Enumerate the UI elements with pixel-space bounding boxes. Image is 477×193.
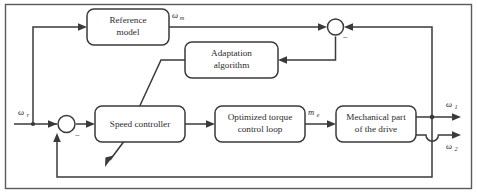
- reference-model-label-line1: Reference: [109, 15, 146, 25]
- wire-error-to-adaptation: [287, 37, 336, 61]
- model-speed-subscript: m: [180, 14, 185, 21]
- optimized-torque-label-line2: control loop: [238, 124, 283, 134]
- optimized-torque-label-line1: Optimized torque: [228, 112, 293, 122]
- block-adaptation-algorithm[interactable]: Adaptation algorithm: [185, 42, 278, 78]
- label-load-speed: ω 2: [446, 141, 458, 152]
- arrowhead-into-input-summing: [48, 120, 57, 128]
- arrowhead-load-speed-output: [452, 131, 461, 139]
- input-summing-sign: −: [74, 130, 79, 140]
- arrowhead-into-error-junction-right: [344, 23, 353, 31]
- label-model-speed: ω m: [172, 10, 185, 21]
- label-motor-speed: ω 1: [446, 99, 458, 110]
- arrowhead-into-speed-controller: [86, 120, 95, 128]
- block-mechanical-part-of-drive[interactable]: Mechanical part of the drive: [336, 106, 416, 142]
- reference-model-label-line2: model: [117, 27, 140, 37]
- motor-speed-subscript: 1: [454, 103, 457, 110]
- node-motor-speed-tap: [430, 115, 435, 120]
- mechanical-part-label-line1: Mechanical part: [346, 112, 406, 122]
- adaptation-algorithm-label-line1: Adaptation: [211, 48, 252, 58]
- reference-speed-symbol: ω: [18, 107, 24, 117]
- wire-reference-speed-to-model: [33, 27, 78, 124]
- electromagnetic-torque-subscript: e: [317, 111, 320, 118]
- arrowhead-feedback-into-summing: [53, 133, 61, 142]
- wire-adaptation-to-speed-controller: [137, 60, 185, 112]
- arrowhead-adaptation-parameter: [105, 156, 114, 167]
- arrowhead-into-torque-loop: [206, 120, 215, 128]
- motor-speed-symbol: ω: [446, 99, 452, 109]
- arrowhead-into-reference-model: [78, 23, 87, 31]
- reference-speed-subscript: r: [27, 111, 30, 118]
- arrowhead-motor-speed-output: [452, 113, 461, 121]
- load-speed-subscript: 2: [454, 145, 457, 152]
- input-summing-circle[interactable]: [58, 116, 75, 133]
- error-summing-sign: −: [342, 32, 347, 42]
- diagram-canvas: Reference model Adaptation algorithm Spe…: [0, 0, 477, 193]
- error-summing-junction[interactable]: −: [328, 19, 348, 42]
- load-speed-symbol: ω: [446, 141, 452, 151]
- model-speed-symbol: ω: [172, 10, 178, 20]
- adaptation-algorithm-label-line2: algorithm: [214, 60, 250, 70]
- arrowhead-into-mechanical-part: [327, 120, 336, 128]
- diagram-frame: [6, 5, 472, 189]
- label-electromagnetic-torque: m e: [308, 107, 320, 118]
- block-speed-controller[interactable]: Speed controller: [95, 106, 185, 142]
- speed-controller-label: Speed controller: [110, 119, 170, 129]
- block-diagram: Reference model Adaptation algorithm Spe…: [0, 0, 477, 193]
- input-summing-junction[interactable]: −: [58, 116, 80, 141]
- mechanical-part-label-line2: of the drive: [355, 124, 397, 134]
- block-optimized-torque-control-loop[interactable]: Optimized torque control loop: [215, 106, 305, 142]
- error-summing-circle[interactable]: [328, 19, 344, 35]
- block-reference-model[interactable]: Reference model: [87, 9, 169, 45]
- label-reference-speed: ω r: [18, 107, 30, 118]
- electromagnetic-torque-symbol: m: [308, 107, 314, 117]
- arrowhead-into-adaptation: [278, 56, 287, 64]
- arrowhead-into-error-junction-left: [318, 23, 327, 31]
